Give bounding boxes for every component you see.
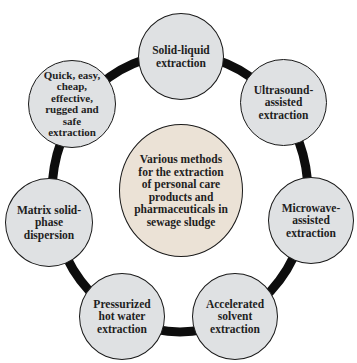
node-matrix-solid-phase-dispersion: Matrix solid- phase dispersion [5, 178, 93, 267]
node-label: Solid-liquid extraction [152, 44, 210, 69]
node-label: Microwave- assisted extraction [282, 202, 341, 240]
node-label: Ultrasound- assisted extraction [254, 84, 313, 122]
node-label: Accelerated solvent extraction [206, 298, 264, 336]
extraction-methods-diagram: Various methods for the extraction of pe… [0, 0, 357, 363]
central-topic-circle: Various methods for the extraction of pe… [119, 124, 243, 257]
node-label: Quick, easy, cheap, effective, rugged an… [44, 70, 101, 139]
node-ultrasound-assisted-extraction: Ultrasound- assisted extraction [240, 59, 327, 146]
central-topic-label: Various methods for the extraction of pe… [134, 153, 228, 228]
node-accelerated-solvent-extraction: Accelerated solvent extraction [192, 273, 278, 360]
node-label: Matrix solid- phase dispersion [17, 204, 81, 242]
node-label: Pressurized hot water extraction [93, 298, 150, 336]
node-solid-liquid-extraction: Solid-liquid extraction [138, 13, 224, 100]
node-quechers-extraction: Quick, easy, cheap, effective, rugged an… [28, 60, 116, 148]
node-microwave-assisted-extraction: Microwave- assisted extraction [268, 177, 354, 264]
node-pressurized-hot-water-extraction: Pressurized hot water extraction [79, 273, 165, 360]
